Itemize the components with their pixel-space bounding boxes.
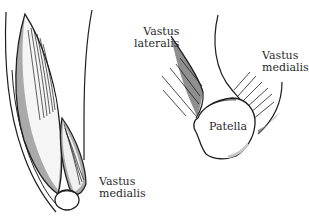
vastus-lateralis-line2: lateralis [134, 38, 180, 50]
right-vastus-medialis-line2: medialis [262, 62, 309, 74]
patella-text: Patella [209, 121, 247, 133]
left-vastus-medialis-line2: medialis [99, 188, 146, 200]
patella-label: Patella [209, 121, 247, 133]
vastus-lateralis-label: Vastus lateralis [134, 26, 180, 50]
quadriceps-patella-diagram: Vastus medialis Vastus lateralis Vastus … [0, 0, 309, 216]
left-vastus-medialis-label: Vastus medialis [99, 176, 146, 200]
right-vastus-medialis-label: Vastus medialis [262, 50, 309, 74]
